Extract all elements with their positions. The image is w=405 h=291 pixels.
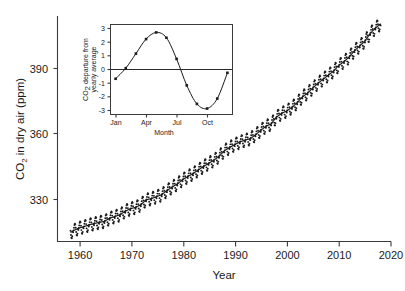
- y-tick-label-390: 390: [30, 63, 48, 75]
- inset-y-tick-label-2: 2: [101, 39, 105, 46]
- inset-x-axis-title: Month: [154, 129, 174, 136]
- figure-keeling-curve: 390 360 330 CO2 in dry air (ppm) 1960 19…: [0, 0, 405, 291]
- y-tick-label-360: 360: [30, 128, 48, 140]
- inset-y-axis-title-line2: yearly average: [90, 46, 98, 92]
- inset-y-tick-label-3: 3: [101, 25, 105, 32]
- y-axis-title-pre: CO: [14, 163, 26, 180]
- inset-y-title-pre: CO: [82, 90, 89, 101]
- x-tick-label-2010: 2010: [327, 249, 351, 261]
- x-axis-title: Year: [212, 269, 235, 281]
- inset-y-tick-label-0: 0: [101, 66, 105, 73]
- inset-x-tick-label-apr: Apr: [141, 119, 153, 127]
- x-tick-label-1970: 1970: [120, 249, 144, 261]
- inset-y-tick-label-neg2: -2: [99, 93, 105, 100]
- x-tick-label-1960: 1960: [68, 249, 92, 261]
- y-tick-label-330: 330: [30, 194, 48, 206]
- inset-y-tick-label-neg1: -1: [99, 80, 105, 87]
- x-tick-label-2020: 2020: [379, 249, 403, 261]
- x-tick-label-1990: 1990: [223, 249, 247, 261]
- inset-y-tick-label-neg3: -3: [99, 107, 105, 114]
- x-tick-label-1980: 1980: [172, 249, 196, 261]
- inset-y-tick-label-1: 1: [101, 52, 105, 59]
- inset-x-tick-label-jan: Jan: [110, 119, 121, 126]
- x-tick-label-2000: 2000: [275, 249, 299, 261]
- inset-y-title-post: departure from: [82, 38, 90, 86]
- inset-x-tick-label-oct: Oct: [202, 119, 213, 126]
- inset-x-tick-label-jul: Jul: [173, 119, 182, 126]
- chart-canvas: 390 360 330 CO2 in dry air (ppm) 1960 19…: [0, 0, 405, 291]
- y-axis-title-post: in dry air (ppm): [14, 78, 26, 159]
